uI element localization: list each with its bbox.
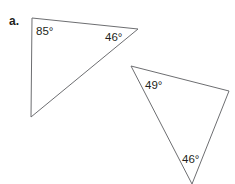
angle-label-49: 49° <box>145 79 162 91</box>
part-label: a. <box>9 14 19 28</box>
angle-label-46-bottom: 46° <box>182 153 199 165</box>
angle-label-85: 85° <box>36 25 53 37</box>
angle-label-46-top: 46° <box>105 31 122 43</box>
triangles-figure: a. 85° 46° 49° 46° <box>0 0 235 184</box>
diagram-canvas: a. 85° 46° 49° 46° <box>0 0 235 184</box>
